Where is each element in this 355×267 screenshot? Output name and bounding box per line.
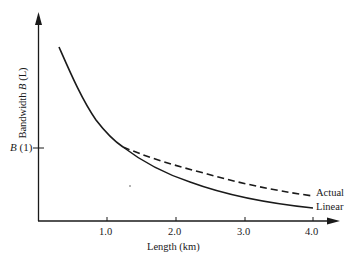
stray-dot: [129, 185, 131, 187]
x-axis-label: Length (km): [147, 242, 200, 253]
x-axis-arrow-icon: [327, 218, 340, 225]
legend-linear: Linear: [316, 202, 343, 213]
x-tick-label-4: 4.0: [305, 227, 318, 238]
y-tick-label-b1: B (1): [10, 142, 32, 153]
x-tick-label-3: 3.0: [237, 227, 250, 238]
curve-shared: [59, 47, 123, 147]
legend-actual: Actual: [316, 188, 344, 199]
y-axis-label: Bandwidth B (L): [17, 67, 28, 138]
x-tick-label-2: 2.0: [168, 227, 181, 238]
y-axis-arrow-icon: [35, 12, 42, 25]
x-tick-label-1: 1.0: [99, 227, 112, 238]
curve-actual: [123, 147, 313, 196]
